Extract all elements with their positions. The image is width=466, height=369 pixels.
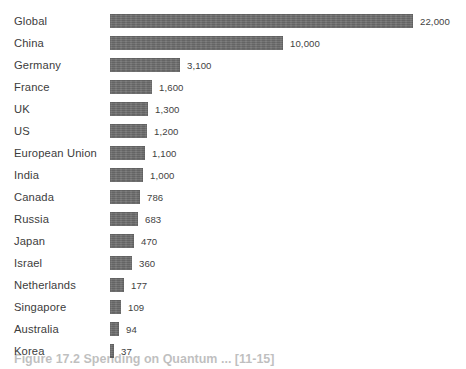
bar-track: 1,600 [110,80,450,94]
bar-value-label: 683 [145,214,161,225]
bar [110,322,119,336]
bar-track: 683 [110,212,450,226]
bar-value-label: 94 [126,324,137,335]
category-label: Germany [14,59,61,72]
bar-value-label: 177 [131,280,147,291]
bar-track: 109 [110,300,450,314]
bar-track: 94 [110,322,450,336]
category-label: France [14,81,50,94]
bar [110,146,145,160]
bar-track: 360 [110,256,450,270]
figure-caption-clip: Figure 17.2 Spending on Quantum ... [11-… [0,352,466,369]
bar-row: Japan470 [0,230,466,252]
bar-row: UK1,300 [0,98,466,120]
bar [110,80,152,94]
bar [110,300,121,314]
bar-value-label: 1,000 [150,170,175,181]
bar-track: 10,000 [110,36,450,50]
category-label: Canada [14,191,54,204]
category-label: China [14,37,44,50]
category-label: Japan [14,235,45,248]
bar-value-label: 470 [141,236,157,247]
bar-row: Australia94 [0,318,466,340]
bar-track: 1,100 [110,146,450,160]
bar [110,190,140,204]
category-label: European Union [14,147,97,160]
bar-row: US1,200 [0,120,466,142]
bar-chart: Global22,000China10,000Germany3,100Franc… [0,10,466,350]
bar-row: Singapore109 [0,296,466,318]
bar [110,278,124,292]
category-label: Global [14,15,47,28]
bar [110,14,413,28]
bar-value-label: 1,600 [159,82,184,93]
category-label: Russia [14,213,49,226]
bar-track: 786 [110,190,450,204]
bar-value-label: 1,300 [155,104,180,115]
category-label: Singapore [14,301,66,314]
bar-row: Canada786 [0,186,466,208]
bar-row: Russia683 [0,208,466,230]
bar-row: China10,000 [0,32,466,54]
bar-track: 22,000 [110,14,450,28]
bar [110,168,143,182]
bar-row: Germany3,100 [0,54,466,76]
category-label: Australia [14,323,59,336]
bar [110,234,134,248]
bar-track: 1,200 [110,124,450,138]
figure-caption: Figure 17.2 Spending on Quantum ... [11-… [14,352,274,367]
bar-value-label: 1,200 [154,126,179,137]
figure-container: Global22,000China10,000Germany3,100Franc… [0,0,466,369]
bar-value-label: 10,000 [290,38,320,49]
bar-row: India1,000 [0,164,466,186]
bar-value-label: 1,100 [152,148,177,159]
bar-track: 1,000 [110,168,450,182]
bar-row: Israel360 [0,252,466,274]
bar [110,36,283,50]
bar-track: 1,300 [110,102,450,116]
bar-track: 3,100 [110,58,450,72]
category-label: UK [14,103,30,116]
category-label: US [14,125,30,138]
bar-track: 470 [110,234,450,248]
bar-value-label: 109 [128,302,144,313]
bar [110,58,180,72]
category-label: Netherlands [14,279,76,292]
bar [110,102,148,116]
bar [110,212,138,226]
bar-value-label: 360 [139,258,155,269]
bar-row: European Union1,100 [0,142,466,164]
bar-value-label: 786 [147,192,163,203]
bar-value-label: 3,100 [187,60,212,71]
bar-track: 177 [110,278,450,292]
bar-row: Global22,000 [0,10,466,32]
bar-row: France1,600 [0,76,466,98]
category-label: India [14,169,39,182]
bar [110,256,132,270]
bar-row: Netherlands177 [0,274,466,296]
bar-value-label: 22,000 [420,16,450,27]
bar [110,124,147,138]
category-label: Israel [14,257,42,270]
